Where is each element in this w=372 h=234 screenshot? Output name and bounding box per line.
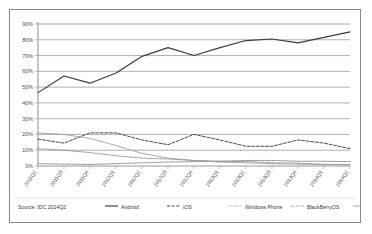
line-chart: 0%10%20%30%40%50%60%70%80%90%2011Q22011Q… (10, 10, 360, 222)
ytick-label-30: 30% (22, 116, 33, 122)
xtick-label-2012Q2: 2012Q2 (126, 169, 142, 188)
source-note: Source: IDC,2014Q2 (18, 204, 66, 210)
ytick-label-0: 0% (25, 163, 33, 169)
series-line-ios (38, 133, 350, 149)
chart-frame: 0%10%20%30%40%50%60%70%80%90%2011Q22011Q… (9, 9, 361, 223)
xtick-label-2012Q3: 2012Q3 (152, 169, 168, 188)
xtick-label-2014Q2: 2014Q2 (334, 169, 350, 188)
ytick-label-90: 90% (22, 21, 33, 27)
legend-label-android: Android (121, 204, 139, 210)
legend-label-ios: iOS (183, 204, 192, 210)
xtick-label-2012Q1: 2012Q1 (100, 169, 116, 188)
ytick-label-50: 50% (22, 84, 33, 90)
ytick-label-20: 20% (22, 131, 33, 137)
xtick-label-2013Q3: 2013Q3 (256, 169, 272, 188)
xtick-label-2011Q4: 2011Q4 (75, 169, 90, 187)
ytick-label-70: 70% (22, 53, 33, 59)
legend-label-windows-phone: Windows Phone (245, 204, 283, 210)
series-line-android (38, 32, 350, 93)
xtick-label-2013Q4: 2013Q4 (282, 169, 298, 188)
ytick-label-60: 60% (22, 68, 33, 74)
xtick-label-2013Q2: 2013Q2 (230, 169, 246, 188)
series-line-blackberryos (38, 149, 350, 165)
xtick-label-2013Q1: 2013Q1 (204, 169, 220, 188)
legend-label-blackberryos: BlackBerryOS (307, 204, 340, 210)
ytick-label-40: 40% (22, 100, 33, 106)
xtick-label-2012Q4: 2012Q4 (178, 169, 194, 188)
chart-area: 0%10%20%30%40%50%60%70%80%90%2011Q22011Q… (10, 10, 360, 222)
xtick-label-2011Q2: 2011Q2 (23, 169, 38, 187)
series-line-others (38, 133, 350, 165)
ytick-label-10: 10% (22, 147, 33, 153)
ytick-label-80: 80% (22, 37, 33, 43)
xtick-label-2014Q1: 2014Q1 (308, 169, 324, 188)
xtick-label-2011Q3: 2011Q3 (49, 169, 64, 187)
